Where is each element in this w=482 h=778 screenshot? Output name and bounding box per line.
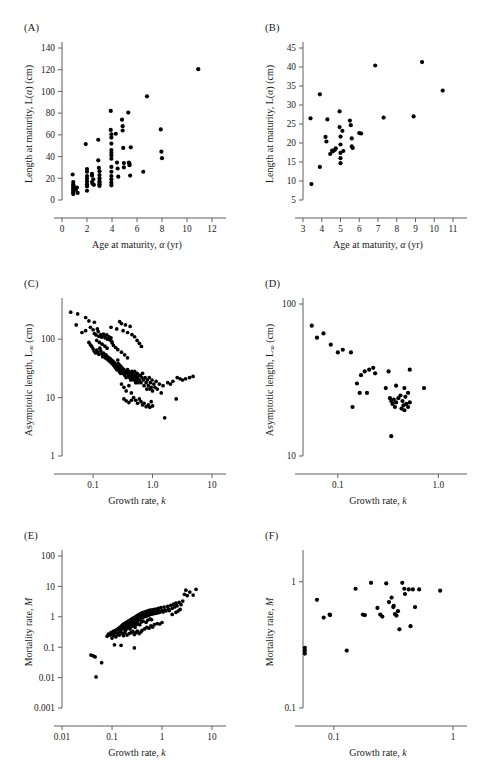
- data-point: [367, 368, 371, 372]
- data-point: [121, 128, 125, 132]
- data-point: [413, 605, 417, 609]
- data-point: [105, 346, 109, 350]
- data-point: [375, 606, 379, 610]
- panel-f-ytick: 0.1: [284, 703, 296, 713]
- data-point: [422, 386, 426, 390]
- data-point: [303, 651, 307, 655]
- panel-a-xtick: 2: [85, 224, 90, 234]
- panel-b-xtick: 11: [449, 224, 458, 234]
- panel-e-points: [89, 588, 198, 679]
- data-point: [411, 587, 415, 591]
- data-point: [196, 67, 200, 71]
- panel-c-ytick: 1: [50, 451, 55, 461]
- data-point: [159, 391, 163, 395]
- data-point: [84, 142, 88, 146]
- panel-e-plot: 0.0010.010.11101000.010.1110Growth rate,…: [0, 524, 241, 776]
- data-point: [417, 587, 421, 591]
- data-point: [359, 131, 363, 135]
- data-point: [159, 127, 163, 131]
- panel-a-xtick: 10: [182, 224, 192, 234]
- data-point: [382, 115, 386, 119]
- data-point: [184, 377, 188, 381]
- data-point: [402, 408, 406, 412]
- data-point: [341, 149, 345, 153]
- data-point: [109, 170, 113, 174]
- data-point: [408, 624, 412, 628]
- data-point: [438, 589, 442, 593]
- data-point: [142, 384, 146, 388]
- panel-b-xtick: 3: [301, 224, 306, 234]
- data-point: [109, 128, 113, 132]
- panel-c-plot: 1101000.11.010Growth rate, kAsymptotic l…: [0, 272, 241, 524]
- data-point: [406, 405, 410, 409]
- data-point: [407, 587, 411, 591]
- panel-b-xtick: 4: [319, 224, 324, 234]
- data-point: [112, 634, 116, 638]
- data-point: [126, 111, 130, 115]
- panel-e-x-axis-title: Growth rate, k: [108, 747, 166, 758]
- data-point: [91, 328, 95, 332]
- data-point: [109, 135, 113, 139]
- data-point: [71, 172, 75, 176]
- data-point: [350, 405, 354, 409]
- panel-e-ytick: 100: [41, 551, 55, 561]
- data-point: [384, 386, 388, 390]
- data-point: [358, 391, 362, 395]
- data-point: [85, 170, 89, 174]
- panel-d-points: [310, 324, 426, 439]
- data-point: [138, 341, 142, 345]
- panel-c-ytick: 10: [46, 393, 56, 403]
- panel-b-xtick: 7: [376, 224, 381, 234]
- data-point: [76, 191, 80, 195]
- data-point: [120, 322, 124, 326]
- data-point: [121, 146, 125, 150]
- data-point: [167, 609, 171, 613]
- data-point: [109, 183, 113, 187]
- panel-b-ytick: 10: [287, 176, 297, 186]
- data-point: [348, 118, 352, 122]
- panel-d-y-axis-title: Asymptotic length, L∞ (cm): [264, 324, 277, 436]
- panel-d: (D)101000.11.0Growth rate, kAsymptotic l…: [241, 272, 482, 524]
- panel-f-plot: 0.110.11Growth rate, kMortality rate, M: [241, 524, 482, 776]
- data-point: [75, 185, 79, 189]
- data-point: [341, 348, 345, 352]
- data-point: [150, 378, 154, 382]
- panel-a-y-axis-title: Length at maturity, L(α) (cm): [23, 65, 35, 183]
- data-point: [402, 587, 406, 591]
- panel-d-plot: 101000.11.0Growth rate, kAsymptotic leng…: [241, 272, 482, 524]
- data-point: [149, 385, 153, 389]
- data-point: [412, 114, 416, 118]
- data-point: [126, 356, 130, 360]
- data-point: [122, 385, 126, 389]
- panel-e-ytick: 10: [46, 582, 56, 592]
- data-point: [113, 643, 117, 647]
- data-point: [93, 655, 97, 659]
- panel-e-xtick: 0.1: [106, 732, 118, 742]
- panel-c-xtick: 1.0: [147, 480, 159, 490]
- data-point: [121, 124, 125, 128]
- data-point: [318, 92, 322, 96]
- data-point: [119, 630, 123, 634]
- data-point: [116, 166, 120, 170]
- panel-e-xtick: 1: [160, 732, 165, 742]
- panel-a-ytick: 40: [46, 152, 56, 162]
- data-point: [155, 387, 159, 391]
- data-point: [400, 581, 404, 585]
- panel-d-ytick: 100: [282, 299, 296, 309]
- data-point: [163, 416, 167, 420]
- data-point: [338, 134, 342, 138]
- data-point: [363, 369, 367, 373]
- data-point: [380, 614, 384, 618]
- data-point: [145, 94, 149, 98]
- data-point: [170, 613, 174, 617]
- data-point: [371, 366, 375, 370]
- data-point: [392, 604, 396, 608]
- data-point: [334, 146, 338, 150]
- panel-a-ytick: 20: [46, 174, 56, 184]
- data-point: [169, 382, 173, 386]
- data-point: [308, 116, 312, 120]
- data-point: [115, 160, 119, 164]
- data-point: [389, 434, 393, 438]
- data-point: [184, 588, 188, 592]
- data-point: [84, 316, 88, 320]
